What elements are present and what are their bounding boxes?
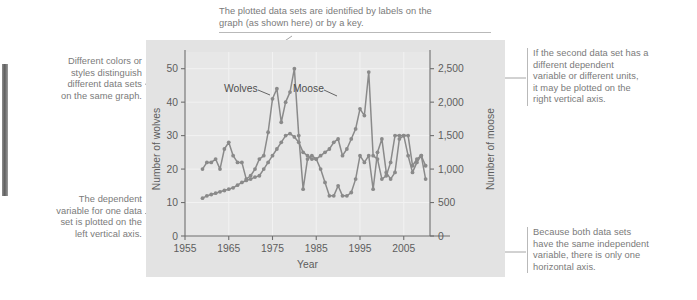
chart-plot[interactable]: 0102030405005001,0001,5002,0002,50019551… — [146, 40, 505, 277]
svg-text:1995: 1995 — [349, 243, 372, 254]
svg-text:40: 40 — [167, 97, 179, 108]
svg-text:Year: Year — [297, 259, 318, 270]
chart-figure: 0102030405005001,0001,5002,0002,50019551… — [146, 40, 505, 277]
svg-text:Number of wolves: Number of wolves — [151, 108, 162, 190]
svg-text:1955: 1955 — [174, 243, 197, 254]
svg-text:1965: 1965 — [217, 243, 240, 254]
svg-text:1,500: 1,500 — [438, 130, 464, 141]
svg-text:1,000: 1,000 — [438, 164, 464, 175]
svg-text:50: 50 — [167, 63, 179, 74]
svg-text:10: 10 — [167, 197, 179, 208]
svg-text:20: 20 — [167, 164, 179, 175]
svg-text:2005: 2005 — [392, 243, 415, 254]
svg-text:Moose: Moose — [293, 83, 324, 94]
svg-text:2,000: 2,000 — [438, 97, 464, 108]
svg-text:0: 0 — [172, 231, 178, 242]
svg-text:2,500: 2,500 — [438, 63, 464, 74]
svg-text:1975: 1975 — [261, 243, 284, 254]
svg-text:1985: 1985 — [305, 243, 328, 254]
svg-text:0: 0 — [438, 231, 444, 242]
svg-text:Wolves: Wolves — [224, 83, 258, 94]
svg-text:30: 30 — [167, 130, 179, 141]
svg-text:500: 500 — [438, 197, 455, 208]
svg-text:Number of moose: Number of moose — [485, 108, 496, 190]
